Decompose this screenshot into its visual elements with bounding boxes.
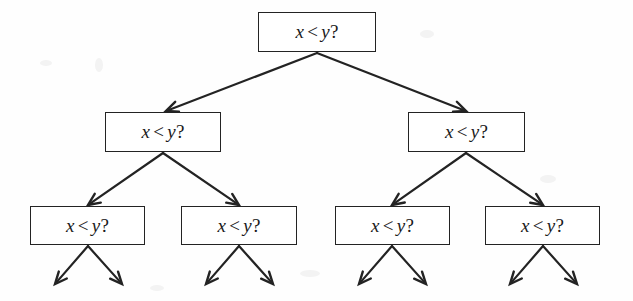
terminal-arrow-n4-left xyxy=(206,246,239,284)
tree-node-n6: x<y? xyxy=(485,206,600,245)
edge-line xyxy=(163,153,238,204)
operand-left: x xyxy=(141,121,150,142)
tree-edge-n1-to-n4 xyxy=(163,153,239,205)
edge-line xyxy=(239,246,272,283)
edge-line xyxy=(466,153,542,204)
comparison-operator: < xyxy=(229,215,240,236)
tree-node-label: x<y? xyxy=(445,121,488,143)
edge-line xyxy=(207,246,239,283)
comparison-operator: < xyxy=(153,121,164,142)
edge-line xyxy=(360,246,392,283)
question-mark: ? xyxy=(252,215,261,236)
question-mark: ? xyxy=(100,215,109,236)
edge-line xyxy=(393,153,466,204)
operand-left: x xyxy=(217,215,226,236)
comparison-operator: < xyxy=(457,121,468,142)
tree-node-n0: x<y? xyxy=(258,12,376,52)
tree-node-n1: x<y? xyxy=(105,112,221,152)
tree-node-n4: x<y? xyxy=(181,206,297,245)
question-mark: ? xyxy=(330,21,339,42)
tree-node-n2: x<y? xyxy=(408,112,525,152)
question-mark: ? xyxy=(479,121,488,142)
tree-edge-n2-to-n6 xyxy=(466,153,543,205)
decision-tree-diagram: x<y?x<y?x<y?x<y?x<y?x<y?x<y? xyxy=(0,0,633,301)
tree-edge-n0-to-n1 xyxy=(166,53,317,112)
terminal-arrow-n3-left xyxy=(55,246,88,284)
tree-node-label: x<y? xyxy=(141,121,184,143)
question-mark: ? xyxy=(176,121,185,142)
tree-node-label: x<y? xyxy=(521,215,564,237)
tree-node-n3: x<y? xyxy=(30,206,145,245)
terminal-arrow-n4-right xyxy=(239,246,273,284)
comparison-operator: < xyxy=(383,215,394,236)
terminal-arrow-n6-left xyxy=(510,246,543,284)
tree-node-n5: x<y? xyxy=(335,206,450,245)
operand-left: x xyxy=(445,121,454,142)
edge-line xyxy=(511,246,543,283)
tree-node-label: x<y? xyxy=(371,215,414,237)
tree-node-label: x<y? xyxy=(66,215,109,237)
terminal-arrow-n6-right xyxy=(543,246,577,284)
edge-line xyxy=(167,53,317,110)
comparison-operator: < xyxy=(533,215,544,236)
comparison-operator: < xyxy=(307,21,318,42)
operand-left: x xyxy=(66,215,75,236)
tree-edge-n2-to-n5 xyxy=(392,153,466,205)
operand-left: x xyxy=(521,215,530,236)
operand-left: x xyxy=(295,21,304,42)
operand-right: y xyxy=(167,121,176,142)
tree-node-label: x<y? xyxy=(295,21,338,43)
operand-right: y xyxy=(243,215,252,236)
terminal-arrow-n5-right xyxy=(392,246,426,284)
tree-edge-n1-to-n3 xyxy=(88,153,163,205)
operand-left: x xyxy=(371,215,380,236)
terminal-arrows xyxy=(55,246,577,284)
tree-node-label: x<y? xyxy=(217,215,260,237)
edge-line xyxy=(392,246,425,283)
comparison-operator: < xyxy=(78,215,89,236)
edge-line xyxy=(543,246,576,283)
edge-line xyxy=(89,153,163,204)
question-mark: ? xyxy=(555,215,564,236)
terminal-arrow-n3-right xyxy=(88,246,122,284)
edge-line xyxy=(56,246,88,283)
edge-line xyxy=(317,53,465,110)
terminal-arrow-n5-left xyxy=(359,246,392,284)
tree-edge-n0-to-n2 xyxy=(317,53,466,112)
edge-line xyxy=(88,246,121,283)
question-mark: ? xyxy=(405,215,414,236)
operand-right: y xyxy=(321,21,330,42)
